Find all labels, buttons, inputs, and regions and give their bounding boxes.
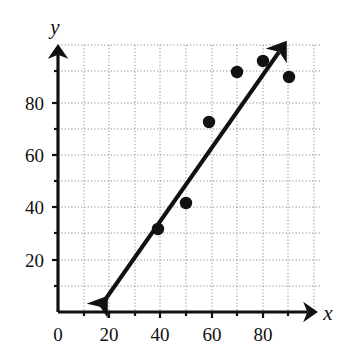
data-point [203, 116, 215, 128]
y-tick-label-40: 40 [25, 197, 44, 218]
y-tick-label-80: 80 [25, 93, 44, 114]
data-point [152, 223, 164, 235]
data-point [257, 55, 269, 67]
data-points [152, 55, 295, 235]
scatter-plot-figure: 80 60 40 20 0 20 40 60 80 y x [0, 0, 346, 352]
y-tick-label-60: 60 [25, 145, 44, 166]
data-point [180, 197, 192, 209]
y-tick-label-20: 20 [25, 250, 44, 271]
grid-vertical-lines [84, 45, 314, 312]
data-point [231, 66, 243, 78]
data-point [283, 71, 295, 83]
x-tick-label-0: 0 [53, 324, 63, 345]
x-tick-label-80: 80 [254, 324, 273, 345]
x-tick-label-60: 60 [203, 324, 222, 345]
grid-horizontal-lines [58, 45, 320, 286]
x-axis-label: x [322, 301, 333, 325]
x-tick-label-40: 40 [151, 324, 170, 345]
plot-canvas: 80 60 40 20 0 20 40 60 80 y x [0, 0, 346, 352]
y-axis-label: y [48, 15, 60, 39]
trend-line [100, 52, 279, 307]
x-tick-label-20: 20 [100, 324, 119, 345]
